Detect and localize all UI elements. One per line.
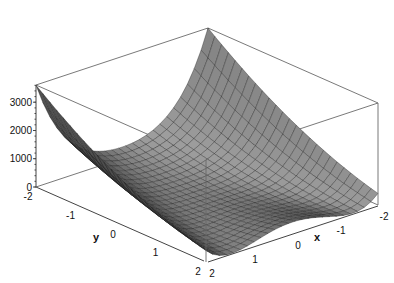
surface-patch [36,85,50,110]
y-tick-label: -1 [66,210,75,221]
x-tick-label: 0 [295,240,301,251]
x-tick-label: 1 [252,254,258,265]
surface-plot: 0100020003000 -2-1012 y -2-1012 x [0,0,394,283]
x-tick-label: 2 [209,268,215,279]
z-tick-label: 2000 [10,125,33,136]
x-tick-label: -2 [380,211,389,222]
z-tick-label: 3000 [10,97,33,108]
y-tick-label: 2 [195,266,201,277]
x-axis-title: x [314,231,321,243]
z-axis-ticks: 0100020003000 [10,85,36,192]
z-tick-label: 1000 [10,153,33,164]
y-tick-label: 0 [110,229,116,240]
y-axis-title: y [93,231,100,243]
y-tick-label: -2 [24,191,33,202]
x-tick-label: -1 [337,225,346,236]
surface-mesh [36,28,378,256]
y-tick-label: 1 [153,247,159,258]
box-edge-top-back-left [36,28,208,85]
